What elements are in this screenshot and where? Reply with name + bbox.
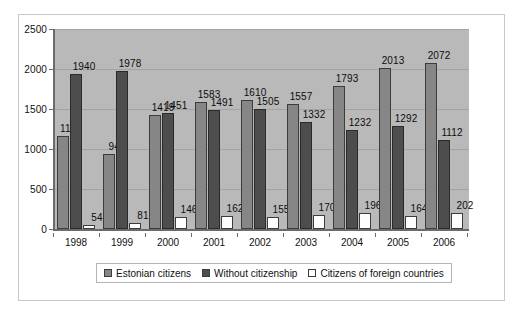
x-axis-tick-mark (53, 233, 54, 237)
bar-citizens-of-foreign-countries-1998 (83, 225, 95, 229)
bar-estonian-citizens-2004 (333, 86, 345, 229)
x-axis-tick-label: 2003 (295, 237, 317, 248)
x-axis-tick-mark (191, 233, 192, 237)
bar-estonian-citizens-2006 (425, 63, 437, 229)
bar-group (103, 29, 141, 229)
x-axis-tick-mark (237, 233, 238, 237)
bar-citizens-of-foreign-countries-2002 (267, 217, 279, 229)
bar-without-citizenship-1999 (116, 71, 128, 229)
bar-citizens-of-foreign-countries-2006 (451, 213, 463, 229)
bar-without-citizenship-2001 (208, 110, 220, 229)
bar-estonian-citizens-2005 (379, 68, 391, 229)
legend-item-without-citizenship[interactable]: Without citizenship (202, 268, 297, 279)
bar-without-citizenship-2006 (438, 140, 450, 229)
legend-item-estonian-citizens[interactable]: Estonian citizens (104, 268, 191, 279)
bar-group (57, 29, 95, 229)
legend-label: Citizens of foreign countries (320, 268, 443, 279)
bar-group (333, 29, 371, 229)
bar-citizens-of-foreign-countries-2003 (313, 215, 325, 229)
y-axis-tick-label: 500 (30, 184, 47, 195)
x-axis-tick-mark (375, 233, 376, 237)
y-axis-tick-label: 1500 (24, 104, 47, 115)
bar-citizens-of-foreign-countries-2000 (175, 217, 187, 229)
legend-swatch-icon (202, 269, 210, 277)
bar-citizens-of-foreign-countries-2004 (359, 213, 371, 229)
y-axis: 05001000150020002500 (19, 29, 53, 229)
plot-area: 1165194054940197881141914511461583149116… (53, 29, 469, 231)
y-axis-tick-label: 1000 (24, 144, 47, 155)
legend-swatch-icon (104, 269, 112, 277)
bar-estonian-citizens-2000 (149, 115, 161, 229)
legend-label: Without citizenship (214, 268, 297, 279)
chart-card: 05001000150020002500 1165194054940197881… (18, 14, 505, 301)
bar-without-citizenship-2000 (162, 113, 174, 229)
bar-estonian-citizens-1998 (57, 136, 69, 229)
x-axis-tick-mark (467, 233, 468, 237)
bar-estonian-citizens-2001 (195, 102, 207, 229)
legend-item-citizens-of-foreign-countries[interactable]: Citizens of foreign countries (308, 268, 443, 279)
x-axis-tick-mark (421, 233, 422, 237)
x-axis-tick-label: 2005 (387, 237, 409, 248)
bar-without-citizenship-2002 (254, 109, 266, 229)
x-axis-tick-mark (99, 233, 100, 237)
bar-estonian-citizens-1999 (103, 154, 115, 229)
x-axis-tick-label: 1999 (111, 237, 133, 248)
y-axis-tick-label: 2500 (24, 24, 47, 35)
bar-estonian-citizens-2002 (241, 100, 253, 229)
x-axis-tick-mark (329, 233, 330, 237)
chart-legend: Estonian citizensWithout citizenshipCiti… (96, 263, 452, 283)
bar-group (379, 29, 417, 229)
bar-citizens-of-foreign-countries-2001 (221, 216, 233, 229)
bar-estonian-citizens-2003 (287, 104, 299, 229)
x-axis-tick-label: 2006 (433, 237, 455, 248)
x-axis-tick-label: 2001 (203, 237, 225, 248)
y-axis-tick-label: 0 (41, 224, 47, 235)
y-axis-tick-label: 2000 (24, 64, 47, 75)
bar-without-citizenship-1998 (70, 74, 82, 229)
x-axis-tick-label: 2004 (341, 237, 363, 248)
x-axis-tick-label: 2000 (157, 237, 179, 248)
bar-group (425, 29, 463, 229)
bar-group (241, 29, 279, 229)
x-axis-tick-mark (283, 233, 284, 237)
x-axis-tick-mark (145, 233, 146, 237)
plot-inner: 1165194054940197881141914511461583149116… (55, 29, 469, 229)
chart-screenshot: 05001000150020002500 1165194054940197881… (0, 0, 523, 318)
bar-group (195, 29, 233, 229)
bar-group (149, 29, 187, 229)
legend-label: Estonian citizens (116, 268, 191, 279)
bar-group (287, 29, 325, 229)
x-axis: 199819992000200120022003200420052006 (53, 233, 467, 253)
bar-without-citizenship-2005 (392, 126, 404, 229)
bar-without-citizenship-2004 (346, 130, 358, 229)
bar-without-citizenship-2003 (300, 122, 312, 229)
legend-swatch-icon (308, 269, 316, 277)
bar-citizens-of-foreign-countries-1999 (129, 223, 141, 229)
x-axis-tick-label: 2002 (249, 237, 271, 248)
bar-citizens-of-foreign-countries-2005 (405, 216, 417, 229)
x-axis-tick-label: 1998 (65, 237, 87, 248)
